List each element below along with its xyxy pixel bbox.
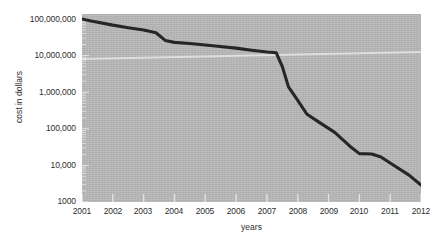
x-axis-tick-label: 2012 bbox=[404, 206, 438, 216]
x-axis-title: years bbox=[82, 222, 421, 232]
x-axis-tick-label: 2006 bbox=[219, 206, 253, 216]
x-axis-tick-label: 2005 bbox=[188, 206, 222, 216]
x-axis-ticks bbox=[82, 194, 421, 202]
x-axis-tick-label: 2007 bbox=[250, 206, 284, 216]
x-axis-tick-label: 2011 bbox=[373, 206, 407, 216]
y-axis-tick-label: 10,000 bbox=[0, 161, 76, 170]
plot-svg bbox=[82, 14, 421, 202]
y-axis-tick-label: 100,000,000 bbox=[0, 15, 76, 24]
y-axis-tick-label: 1000 bbox=[0, 197, 76, 206]
plot-area bbox=[82, 14, 421, 202]
x-axis-tick-label: 2010 bbox=[342, 206, 376, 216]
data-series-line bbox=[82, 19, 421, 185]
x-axis-tick-label: 2002 bbox=[96, 206, 130, 216]
y-axis-title: cost in dollars bbox=[14, 37, 24, 157]
chart-figure: 100,000,000 10,000,000 1,000,000 100,000… bbox=[0, 0, 445, 243]
x-axis-tick-label: 2001 bbox=[65, 206, 99, 216]
y-axis-tick-label: 100,000 bbox=[0, 124, 76, 133]
x-axis-tick-label: 2009 bbox=[312, 206, 346, 216]
y-axis-tick-label: 1,000,000 bbox=[0, 88, 76, 97]
x-axis-tick-label: 2003 bbox=[126, 206, 160, 216]
y-axis-tick-label: 10,000,000 bbox=[0, 51, 76, 60]
x-axis-tick-label: 2008 bbox=[281, 206, 315, 216]
y-axis-minor-ticks bbox=[82, 19, 89, 202]
x-axis-tick-label: 2004 bbox=[157, 206, 191, 216]
